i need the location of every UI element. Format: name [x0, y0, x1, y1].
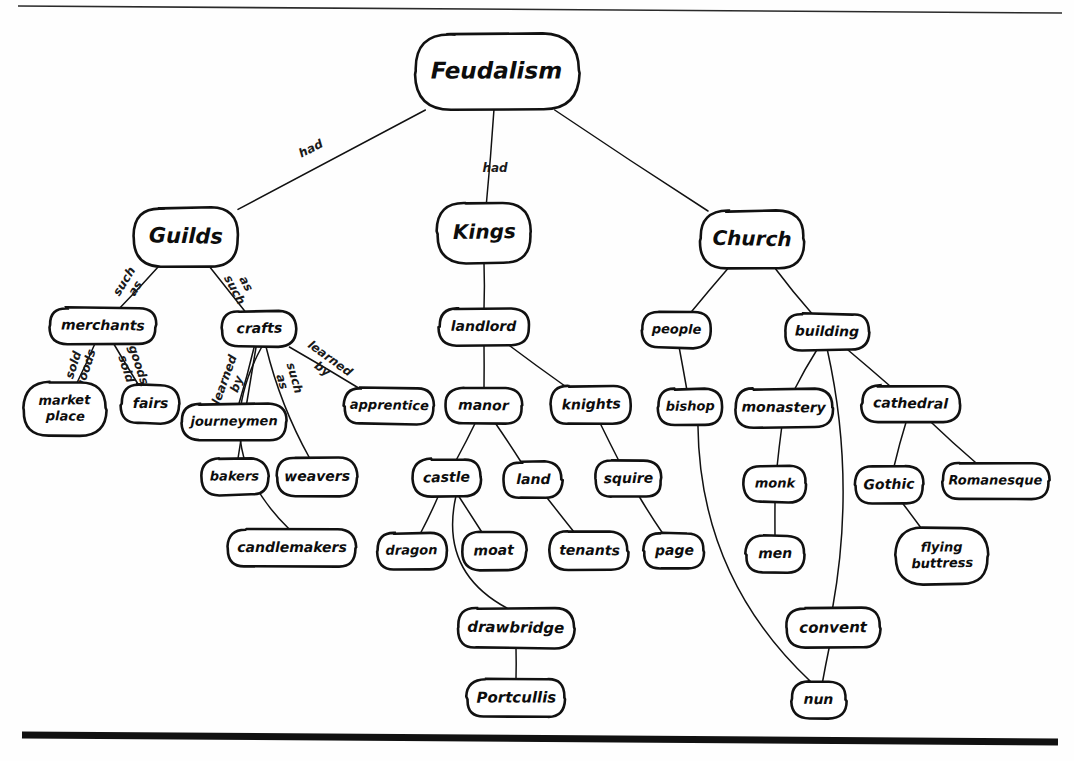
node-label-feudalism: Feudalism	[431, 57, 562, 83]
node-knights[interactable]: knights	[551, 386, 631, 424]
edge-label-feudalism-to-kings: had	[482, 161, 508, 175]
node-apprentice[interactable]: apprentice	[344, 388, 434, 425]
edge-building-to-convent	[827, 350, 843, 608]
node-label-manor: manor	[458, 397, 510, 414]
node-moat[interactable]: moat	[462, 532, 526, 571]
node-label-nun: nun	[803, 691, 833, 707]
node-label-flyingbuttress: buttress	[911, 555, 973, 571]
nodes-layer: FeudalismGuildsKingsChurchmerchantscraft…	[23, 33, 1049, 718]
node-label-tenants: tenants	[559, 542, 620, 559]
node-label-journeymen: journeymen	[188, 413, 277, 429]
node-label-bakers: bakers	[210, 468, 260, 483]
node-label-marketplace: market	[38, 392, 91, 408]
node-monk[interactable]: monk	[743, 466, 806, 503]
node-flyingbuttress[interactable]: flyingbuttress	[895, 527, 988, 584]
node-page[interactable]: page	[643, 533, 704, 569]
edge-label-feudalism-to-guilds: had	[296, 136, 325, 160]
node-romanesque[interactable]: Romanesque	[942, 463, 1049, 499]
node-portcullis[interactable]: Portcullis	[466, 679, 565, 717]
node-label-landlord: landlord	[451, 318, 518, 334]
node-label-romanesque: Romanesque	[948, 472, 1042, 487]
node-nun[interactable]: nun	[791, 681, 846, 718]
node-merchants[interactable]: merchants	[50, 307, 157, 344]
node-label-marketplace: place	[45, 408, 85, 424]
node-dragon[interactable]: dragon	[377, 533, 447, 570]
node-label-people: people	[651, 321, 702, 337]
node-building[interactable]: building	[785, 313, 869, 350]
node-label-building: building	[795, 323, 860, 340]
node-marketplace[interactable]: marketplace	[23, 382, 106, 436]
edge-manor-to-land	[496, 424, 521, 462]
edge-landlord-to-knights	[509, 345, 565, 386]
concept-map-canvas: hadhadsuchasassuchsoldgoodsgoodssoldlear…	[0, 0, 1074, 761]
node-label-kings: Kings	[453, 219, 516, 244]
node-label-drawbridge: drawbridge	[467, 618, 564, 638]
node-label-bishop: bishop	[666, 398, 715, 414]
node-label-cathedral: cathedral	[873, 394, 949, 411]
node-squire[interactable]: squire	[595, 460, 661, 496]
node-label-men: men	[758, 545, 792, 562]
node-tenants[interactable]: tenants	[549, 531, 628, 570]
node-bakers[interactable]: bakers	[201, 458, 268, 495]
edge-feudalism-to-kings	[486, 110, 494, 203]
node-cathedral[interactable]: cathedral	[861, 385, 960, 422]
node-men[interactable]: men	[745, 535, 804, 572]
node-people[interactable]: people	[642, 312, 711, 348]
node-gothic[interactable]: Gothic	[855, 466, 924, 503]
node-crafts[interactable]: crafts	[222, 311, 297, 347]
edge-label-crafts-to-apprentice: learned	[305, 338, 355, 380]
node-fairs[interactable]: fairs	[121, 384, 180, 423]
node-label-moat: moat	[473, 542, 515, 559]
edge-building-to-monastery	[795, 350, 817, 389]
node-label-crafts: crafts	[236, 320, 282, 337]
node-monastery[interactable]: monastery	[735, 388, 833, 427]
node-label-fairs: fairs	[133, 395, 169, 411]
node-label-candlemakers: candlemakers	[237, 539, 347, 555]
node-label-squire: squire	[604, 470, 654, 487]
edge-manor-to-castle	[457, 424, 475, 459]
node-guilds[interactable]: Guilds	[134, 207, 238, 267]
node-convent[interactable]: convent	[786, 608, 880, 648]
edge-squire-to-page	[640, 497, 663, 533]
node-drawbridge[interactable]: drawbridge	[458, 608, 575, 648]
edge-labels-layer: hadhadsuchasassuchsoldgoodsgoodssoldlear…	[62, 136, 508, 406]
node-manor[interactable]: manor	[446, 388, 523, 424]
node-candlemakers[interactable]: candlemakers	[228, 529, 357, 567]
edge-building-to-cathedral	[848, 350, 890, 386]
node-feudalism[interactable]: Feudalism	[415, 33, 580, 109]
node-label-church: Church	[712, 226, 792, 251]
edge-label-crafts-to-bakers: as	[273, 372, 291, 391]
edge-land-to-tenants	[547, 498, 574, 532]
edge-feudalism-to-church	[555, 110, 708, 211]
edge-people-to-bishop	[679, 348, 686, 389]
node-landlord[interactable]: landlord	[439, 308, 529, 345]
edge-castle-to-moat	[459, 497, 482, 532]
node-label-flyingbuttress: flying	[921, 539, 963, 554]
node-label-monastery: monastery	[741, 399, 826, 416]
node-label-merchants: merchants	[61, 316, 145, 333]
node-label-apprentice: apprentice	[350, 397, 430, 413]
node-label-weavers: weavers	[284, 468, 350, 484]
edge-cathedral-to-romanesque	[931, 422, 976, 463]
node-castle[interactable]: castle	[413, 458, 482, 496]
node-label-dragon: dragon	[385, 542, 437, 557]
top-rule	[18, 6, 1062, 13]
node-land[interactable]: land	[503, 461, 562, 497]
edge-cathedral-to-gothic	[894, 422, 906, 466]
node-label-guilds: Guilds	[149, 223, 224, 248]
edge-knights-to-squire	[601, 424, 620, 461]
edge-church-to-building	[776, 269, 813, 314]
node-label-monk: monk	[755, 475, 797, 490]
node-weavers[interactable]: weavers	[277, 458, 358, 497]
edge-monastery-to-monk	[777, 427, 782, 466]
bottom-rule	[22, 735, 1058, 742]
node-kings[interactable]: Kings	[437, 203, 531, 264]
node-journeymen[interactable]: journeymen	[182, 403, 287, 440]
edge-church-to-people	[691, 269, 727, 312]
node-bishop[interactable]: bishop	[658, 389, 722, 425]
edge-feudalism-to-guilds	[238, 110, 425, 209]
node-label-page: page	[654, 542, 694, 558]
node-church[interactable]: Church	[700, 210, 804, 268]
node-label-castle: castle	[423, 469, 470, 486]
node-label-gothic: Gothic	[863, 476, 915, 493]
